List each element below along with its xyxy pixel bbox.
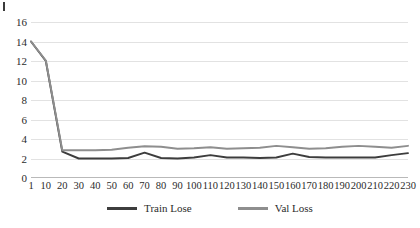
y-axis-tick-label: 2	[22, 153, 28, 164]
x-axis-tick-label: 80	[156, 180, 167, 192]
y-axis-tick-label: 14	[16, 36, 27, 47]
x-axis-tick-label: 10	[41, 180, 52, 192]
x-axis-tick-label: 190	[334, 180, 350, 192]
x-axis-tick-label: 20	[57, 180, 68, 192]
corner-tick-mark	[3, 2, 5, 11]
y-axis-tick-label: 6	[22, 114, 28, 125]
y-axis-tick-label: 0	[22, 173, 28, 184]
legend-label: Val Loss	[275, 203, 313, 214]
y-axis-tick-label: 8	[22, 95, 28, 106]
x-axis-tick-label: 160	[285, 180, 301, 192]
x-axis-tick-label: 30	[73, 180, 84, 192]
x-axis-tick-label: 220	[384, 180, 400, 192]
x-axis-tick-label: 50	[106, 180, 117, 192]
y-axis-tick-label: 4	[22, 134, 28, 145]
legend-label: Train Lose	[144, 203, 192, 214]
y-axis-tick-label: 10	[16, 75, 27, 86]
x-axis-tick-label: 180	[318, 180, 334, 192]
x-axis-tick-label: 150	[268, 180, 284, 192]
x-axis-tick-label: 200	[351, 180, 367, 192]
x-axis-tick-label: 110	[203, 180, 218, 192]
x-axis-tick-label: 1	[28, 180, 33, 192]
x-axis-tick-label: 60	[123, 180, 134, 192]
x-axis: 1102030405060708090100110120130140150160…	[31, 180, 408, 194]
y-axis-tick-label: 12	[16, 56, 27, 67]
series-lines	[31, 22, 408, 178]
x-axis-tick-label: 120	[219, 180, 235, 192]
x-axis-tick-label: 230	[400, 180, 416, 192]
legend-swatch-icon	[107, 207, 137, 210]
y-axis: 1614121086420	[0, 22, 27, 178]
x-axis-tick-label: 210	[367, 180, 383, 192]
y-axis-tick-label: 16	[16, 17, 27, 28]
loss-curve-chart: 1614121086420 11020304050607080901001101…	[0, 0, 420, 228]
x-axis-tick-label: 170	[301, 180, 317, 192]
x-axis-tick-label: 100	[186, 180, 202, 192]
x-axis-tick-label: 90	[172, 180, 183, 192]
legend-swatch-icon	[238, 207, 268, 210]
legend-item-val-loss[interactable]: Val Loss	[238, 203, 313, 214]
x-axis-tick-label: 130	[235, 180, 251, 192]
x-axis-tick-label: 140	[252, 180, 268, 192]
plot-area	[31, 22, 408, 178]
legend-item-train-lose[interactable]: Train Lose	[107, 203, 192, 214]
series-line-val-loss	[31, 42, 408, 151]
x-axis-tick-label: 70	[139, 180, 150, 192]
series-line-train-lose	[31, 42, 408, 159]
x-axis-tick-label: 40	[90, 180, 101, 192]
chart-legend: Train LoseVal Loss	[0, 203, 420, 214]
